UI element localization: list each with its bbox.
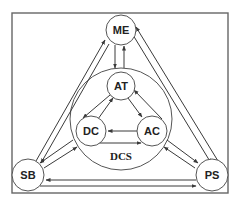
node-at-label: AT <box>114 80 128 92</box>
node-at: AT <box>107 72 135 100</box>
node-me: ME <box>106 15 136 45</box>
node-dc: DC <box>76 116 106 146</box>
node-ac-label: AC <box>144 125 160 137</box>
node-dc-label: DC <box>83 125 99 137</box>
node-ps: PS <box>196 159 228 191</box>
edge-sb-to-dcs <box>44 147 77 168</box>
node-me-label: ME <box>113 24 130 36</box>
node-ac: AC <box>137 116 167 146</box>
node-ps-label: PS <box>205 169 220 181</box>
diagram-canvas: ME AT DC AC SB PS DCS <box>0 0 238 202</box>
node-sb: SB <box>12 159 44 191</box>
dcs-group-label: DCS <box>110 150 132 162</box>
node-sb-label: SB <box>20 169 35 181</box>
